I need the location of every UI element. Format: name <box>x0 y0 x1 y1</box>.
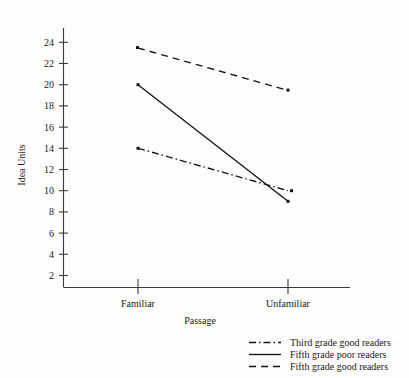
legend-item-third-grade-good-readers: Third grade good readers <box>249 337 391 348</box>
y-tick-label-8: 8 <box>49 206 54 217</box>
x-axis-title: Passage <box>184 315 216 326</box>
legend-label-fifth-grade-poor-readers: Fifth grade poor readers <box>290 349 386 360</box>
data-point-fifth-good-familiar <box>136 46 139 49</box>
legend-item-fifth-grade-poor-readers: Fifth grade poor readers <box>249 349 386 360</box>
y-tick-label-18: 18 <box>44 100 54 111</box>
chart-legend: Third grade good readers Fifth grade poo… <box>249 337 391 372</box>
data-point-third-good-unfamiliar <box>290 189 293 192</box>
y-tick-label-4: 4 <box>49 249 54 260</box>
series-line-third-grade-good-readers <box>138 148 288 190</box>
y-tick-label-22: 22 <box>44 58 54 69</box>
series-line-fifth-grade-good-readers <box>138 48 288 90</box>
y-axis-title: Idea Units <box>16 144 27 185</box>
y-tick-label-20: 20 <box>44 79 54 90</box>
y-tick-label-12: 12 <box>44 164 54 175</box>
y-tick-label-2: 2 <box>49 270 54 281</box>
y-tick-label-10: 10 <box>44 185 54 196</box>
legend-label-third-grade-good-readers: Third grade good readers <box>290 337 391 348</box>
legend-label-fifth-grade-good-readers: Fifth grade good readers <box>290 361 388 372</box>
legend-item-fifth-grade-good-readers: Fifth grade good readers <box>249 361 388 372</box>
x-tick-label-familiar: Familiar <box>121 298 156 309</box>
y-tick-label-14: 14 <box>44 143 54 154</box>
y-tick-label-24: 24 <box>44 37 54 48</box>
y-tick-label-6: 6 <box>49 228 54 239</box>
data-point-fifth-poor-unfamiliar <box>287 200 290 203</box>
y-tick-label-16: 16 <box>44 122 54 133</box>
data-point-third-good-familiar <box>137 147 140 150</box>
data-point-fifth-poor-familiar <box>137 83 140 86</box>
y-axis-tick-labels: 2 4 6 8 10 12 14 16 18 20 22 24 <box>44 37 54 281</box>
x-axis-ticks <box>138 279 288 294</box>
chart-figure: 2 4 6 8 10 12 14 16 18 20 22 24 Familiar… <box>0 0 409 378</box>
x-tick-label-unfamiliar: Unfamiliar <box>266 298 311 309</box>
line-chart: 2 4 6 8 10 12 14 16 18 20 22 24 Familiar… <box>0 0 409 378</box>
data-point-fifth-good-unfamiliar <box>287 89 290 92</box>
